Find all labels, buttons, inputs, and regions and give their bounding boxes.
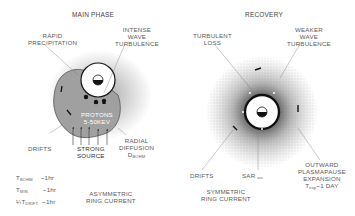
- protons-label: PROTONS 5-50KEV: [80, 111, 114, 125]
- drifts-label-left: DRIFTS: [28, 145, 52, 152]
- timescale-drift: ¼TDRIFT ~1hr: [16, 197, 56, 209]
- main-phase-figure: [45, 44, 152, 145]
- sar-arc-label: SAR arc: [242, 172, 263, 181]
- timescale-min: TMIN ~1hr: [16, 185, 56, 197]
- recovery-title: RECOVERY: [245, 11, 283, 18]
- turbulent-loss-label: TURBULENT LOSS: [193, 32, 232, 46]
- drifts-label-right: DRIFTS: [190, 172, 214, 179]
- timescales-list: TBOHM ~1hr TMIN ~1hr ¼TDRIFT ~1hr: [16, 173, 56, 209]
- timescale-bohm: TBOHM ~1hr: [16, 173, 56, 185]
- outward-plasmapause-label: OUTWARD PLASMAPAUSE EXPANSION Texp~1 DAY: [298, 161, 346, 191]
- strong-source-label: STRONG SOURCE: [77, 145, 105, 159]
- symmetric-ring-current-caption: SYMMETRIC RING CURRENT: [201, 188, 251, 202]
- recovery-figure: [202, 44, 320, 170]
- rapid-precipitation-label: RAPID PRECIPITATION: [28, 32, 77, 46]
- weaker-wave-turbulence-label: WEAKER WAVE TURBULENCE: [287, 26, 331, 47]
- asymmetric-ring-current-caption: ASYMMETRIC RING CURRENT: [86, 190, 136, 204]
- radial-diffusion-label: RADIAL DIFFUSION DBOHM: [119, 137, 154, 160]
- intense-wave-turbulence-label: INTENSE WAVE TURBULENCE: [115, 26, 159, 47]
- main-phase-title: MAIN PHASE: [72, 11, 114, 18]
